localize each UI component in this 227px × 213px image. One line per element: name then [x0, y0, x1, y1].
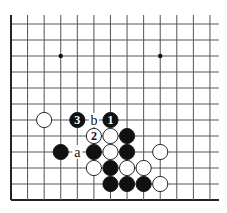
- black-stone: 1: [103, 112, 118, 127]
- white-stone: [103, 144, 118, 159]
- white-stone: [86, 160, 101, 175]
- move-number: 2: [91, 129, 97, 143]
- white-stone: 2: [86, 128, 101, 143]
- black-stone: [86, 144, 101, 159]
- black-stone: [136, 176, 151, 191]
- black-stone: [103, 176, 118, 191]
- white-stone: [153, 176, 168, 191]
- white-stone: [37, 112, 52, 127]
- black-stone: [119, 128, 134, 143]
- star-point-icon: [59, 54, 63, 58]
- star-point-icon: [158, 54, 162, 58]
- white-stone: [103, 128, 118, 143]
- point-label-a: a: [74, 145, 81, 160]
- white-stone: [119, 160, 134, 175]
- black-stone: [119, 144, 134, 159]
- go-board-diagram: 312 ba: [0, 0, 227, 213]
- move-number: 3: [74, 113, 80, 127]
- point-label-b: b: [90, 113, 97, 128]
- black-stone: [53, 144, 68, 159]
- black-stone: 3: [70, 112, 85, 127]
- move-number: 1: [107, 113, 113, 127]
- white-stone: [153, 144, 168, 159]
- white-stone: [136, 160, 151, 175]
- black-stone: [103, 160, 118, 175]
- black-stone: [119, 176, 134, 191]
